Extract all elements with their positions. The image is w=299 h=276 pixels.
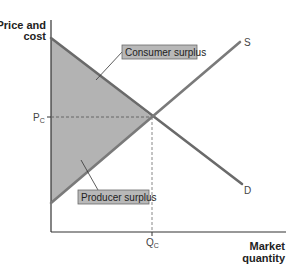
x-axis-title-line2: quantity <box>242 252 286 264</box>
consumer-surplus-callout: Consumer surplus <box>122 45 206 59</box>
equilibrium-quantity-label: QC <box>146 237 159 249</box>
y-axis-title-line2: cost <box>23 30 46 42</box>
surplus-diagram: S D Consumer surplus Producer surplus Pr… <box>0 0 299 276</box>
consumer-surplus-label: Consumer surplus <box>125 47 206 58</box>
supply-label: S <box>244 37 251 48</box>
equilibrium-price-label: PC <box>33 112 45 124</box>
x-axis-title-line1: Market <box>250 240 286 252</box>
surplus-area <box>51 38 152 203</box>
producer-surplus-callout: Producer surplus <box>78 190 157 204</box>
consumer-surplus-leader <box>96 52 122 80</box>
demand-label: D <box>244 185 251 196</box>
producer-surplus-label: Producer surplus <box>81 192 157 203</box>
